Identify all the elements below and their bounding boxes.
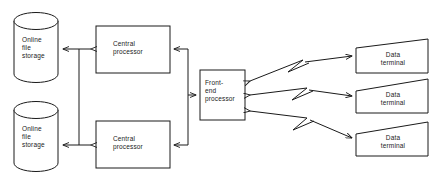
terminal-2-label: Data terminal — [362, 91, 424, 107]
storage-bottom-label: Online file storage — [22, 125, 62, 150]
cpu-bottom-label: Central processor — [113, 135, 173, 151]
connector-front-end-to-terminal-3 — [250, 111, 352, 138]
terminal-1-label: Data terminal — [362, 51, 424, 67]
storage-top-label: Online file storage — [22, 36, 62, 61]
connector-front-end-to-terminal-2 — [250, 88, 352, 100]
cpu-top-label: Central processor — [113, 40, 173, 56]
front-end-label: Front- end processor — [205, 79, 247, 104]
terminal-3-label: Data terminal — [362, 134, 424, 150]
connector-cpu-bus-to-front-end — [174, 49, 196, 145]
connector-front-end-to-terminal-1 — [250, 56, 352, 81]
diagram-canvas: Online file storage Online file storage … — [0, 0, 440, 183]
